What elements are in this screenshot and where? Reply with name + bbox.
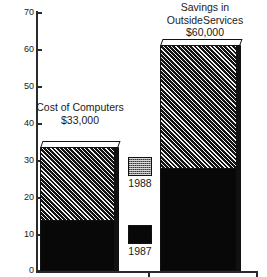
y-tick-label-70: 70 — [24, 8, 34, 17]
bar-segment-1987 — [41, 221, 117, 270]
bar-body — [160, 45, 240, 271]
y-tick-60 — [38, 49, 42, 51]
y-tick-label-30: 30 — [24, 156, 34, 165]
legend-label-1988: 1988 — [126, 177, 154, 189]
bar-segment-1987 — [161, 169, 239, 270]
x-tick-center — [148, 273, 150, 277]
legend-swatch-1988 — [128, 157, 152, 176]
legend-swatch-1987 — [128, 225, 152, 244]
legend-label-1987: 1987 — [126, 245, 154, 257]
bar-segment-1988 — [161, 46, 239, 168]
y-tick-label-10: 10 — [24, 230, 34, 239]
bar-cap-top — [160, 39, 243, 46]
bar-segment-1988 — [41, 148, 117, 220]
bar-savings-in-outside-services — [160, 39, 240, 271]
y-tick-label-60: 60 — [24, 45, 34, 54]
x-tick-right — [256, 273, 258, 277]
x-axis-line — [36, 271, 258, 273]
bar-cost-of-computers — [40, 141, 118, 271]
legend-item-1987: 1987 — [126, 225, 154, 257]
legend-item-1988: 1988 — [126, 157, 154, 189]
bar-side-edge — [114, 147, 119, 271]
bar-cap-top — [40, 141, 121, 148]
bar-label-cost-of-computers: Cost of Computers $33,000 — [24, 101, 136, 126]
y-tick-50 — [38, 86, 42, 88]
bar-label-savings-in-outside-services: Savings in OutsideServices $60,000 — [146, 1, 264, 39]
y-tick-label-20: 20 — [24, 193, 34, 202]
bar-body — [40, 147, 118, 271]
y-tick-label-0: 0 — [29, 266, 34, 275]
y-tick-70 — [38, 12, 42, 14]
bar-side-edge — [236, 45, 241, 271]
y-tick-label-50: 50 — [24, 82, 34, 91]
